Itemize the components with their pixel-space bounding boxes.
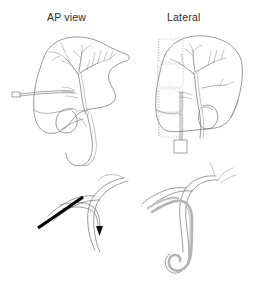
skin-entry-marker-lateral <box>174 140 187 153</box>
guidewire-tip-marker <box>96 226 103 236</box>
needle-solid-shaft <box>38 197 83 228</box>
panel-catheter-detail <box>142 163 236 273</box>
access-needle-lateral[interactable] <box>174 92 187 153</box>
vertebral-body-4 <box>159 114 183 137</box>
bile-duct-catheter-view <box>142 163 236 273</box>
gallbladder-cbd-lateral <box>199 105 218 138</box>
vertebral-bodies-lateral <box>158 39 184 137</box>
access-needle-ap[interactable] <box>12 91 74 97</box>
catheter-shaft <box>152 201 192 271</box>
needle-shaft-ap <box>20 91 74 94</box>
panel-lateral-view <box>156 36 243 153</box>
vertebral-body-3 <box>159 89 183 112</box>
figure-artwork <box>0 0 259 282</box>
panel-label-lateral: Lateral <box>167 12 201 23</box>
liver-outline-lateral <box>156 36 243 132</box>
needle-hub-marker-ap <box>12 92 20 97</box>
gallbladder-cbd-ap <box>56 109 96 167</box>
biliary-tree-lateral <box>170 44 233 115</box>
bile-duct-detail <box>48 175 128 252</box>
vertebral-body-1 <box>159 39 183 62</box>
liver-outline-ap <box>34 37 130 134</box>
guidewire-detail <box>60 203 103 237</box>
access-needle-detail[interactable] <box>38 197 83 228</box>
panel-ap-view <box>12 37 129 166</box>
guidewire-line <box>60 203 100 229</box>
vertebral-body-2 <box>159 64 183 87</box>
panel-needle-access-detail <box>38 175 128 252</box>
drainage-catheter[interactable] <box>148 198 192 271</box>
biliary-tree-ap <box>49 43 116 114</box>
panel-label-ap-view: AP view <box>47 12 86 23</box>
figure-root: AP view Lateral <box>0 0 259 282</box>
